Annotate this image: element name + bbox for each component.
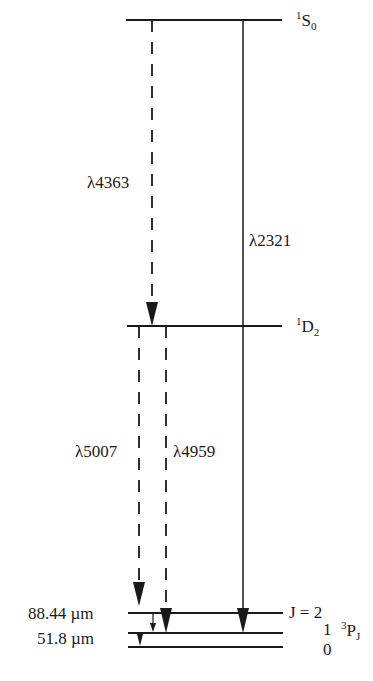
level-label-j0: 0 (323, 641, 332, 658)
label-term: S (302, 11, 311, 30)
arrowhead-88um (150, 623, 156, 632)
label-mult: 1 (296, 315, 302, 327)
transition-label-51um: 51.8 µm (37, 630, 94, 647)
level-label-j1: 1 (323, 621, 332, 638)
label-j: 0 (311, 20, 317, 32)
transition-label-2321: λ2321 (249, 232, 291, 249)
level-label-j2: J = 2 (289, 604, 322, 621)
arrowhead-51um (137, 634, 143, 646)
arrowhead-4959 (160, 608, 172, 633)
level-label-3PJ: 3PJ (341, 622, 360, 639)
level-label-1D2: 1D2 (296, 318, 319, 335)
label-j: J (356, 630, 360, 642)
energy-level-diagram (0, 0, 373, 681)
transition-label-4363: λ4363 (87, 174, 129, 191)
transition-label-4959: λ4959 (173, 443, 215, 460)
arrowhead-5007 (133, 582, 145, 606)
level-label-1S0: 1S0 (296, 12, 316, 29)
label-term: D (302, 317, 314, 336)
transition-label-88um: 88.44 µm (28, 605, 94, 622)
label-mult: 1 (296, 9, 302, 21)
arrowhead-4363 (146, 302, 158, 326)
transition-label-5007: λ5007 (75, 443, 117, 460)
label-mult: 3 (341, 619, 347, 631)
arrowhead-2321 (237, 608, 249, 633)
label-j: 2 (314, 326, 320, 338)
label-term: P (347, 621, 356, 640)
